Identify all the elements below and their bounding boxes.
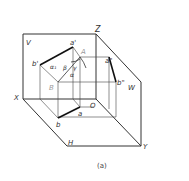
label-z: Z xyxy=(94,25,101,34)
label-a-prime: a' xyxy=(70,39,76,47)
label-v: V xyxy=(26,39,32,47)
projection-diagram: Z V a' A a" b' α₁ β γ α B b" W X O a b H… xyxy=(0,0,189,181)
label-y: Y xyxy=(143,143,148,151)
h-plane xyxy=(23,99,141,146)
label-a-dblprime: a" xyxy=(105,57,113,65)
label-b: b xyxy=(56,121,61,129)
label-b-prime: b' xyxy=(32,60,38,68)
caption: (a) xyxy=(97,162,107,170)
label-alpha: α xyxy=(70,71,74,78)
label-h: H xyxy=(68,139,74,147)
label-a: a xyxy=(78,110,82,118)
label-B: B xyxy=(49,84,54,92)
label-w: W xyxy=(128,84,136,92)
label-b-dblprime: b" xyxy=(117,79,125,87)
label-x: X xyxy=(13,94,19,102)
label-alpha1: α₁ xyxy=(50,63,57,70)
label-beta: β xyxy=(63,64,67,72)
label-o: O xyxy=(90,102,96,110)
label-A: A xyxy=(80,48,86,56)
